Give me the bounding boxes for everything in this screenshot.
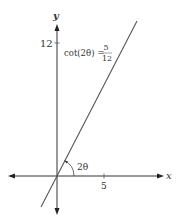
x-tick-label-5: 5 [101,181,107,191]
coordinate-diagram: y x 12 5 cot(2θ) = 5 12 2θ [0,0,179,224]
y-axis-top-arrow-icon [55,24,60,31]
y-axis [55,24,60,215]
y-axis-bottom-arrow-icon [55,208,60,215]
y-tick-label-12: 12 [40,38,53,49]
equation-numerator: 5 [104,43,109,52]
equation-annotation: cot(2θ) = 5 12 [64,43,112,63]
angle-arc [64,161,74,176]
angle-label: 2θ [77,162,88,172]
x-axis-label: x [166,170,172,181]
equation-lhs: cot(2θ) = [64,48,104,58]
y-axis-label: y [52,10,60,21]
x-axis-right-arrow-icon [157,174,164,179]
equation-denominator: 12 [102,54,112,63]
x-axis [8,174,164,179]
x-axis-left-arrow-icon [8,174,15,179]
